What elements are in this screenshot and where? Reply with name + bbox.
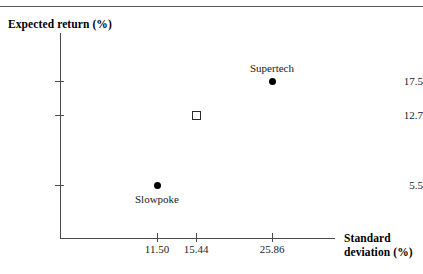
x-tick-mark-1: [196, 233, 197, 242]
y-axis-title: Expected return (%): [8, 18, 112, 30]
data-point-portfolio[interactable]: [192, 111, 201, 120]
y-axis-line: [60, 33, 61, 239]
data-point-supertech[interactable]: [269, 78, 276, 85]
y-tick-label-0: 17.5: [371, 76, 423, 87]
y-tick-label-2: 5.5: [371, 180, 423, 191]
data-point-slowpoke[interactable]: [154, 182, 161, 189]
data-point-label-supertech: Supertech: [222, 62, 322, 74]
x-tick-mark-0: [157, 233, 158, 242]
x-axis-line: [60, 238, 335, 239]
chart-figure: Expected return (%) 17.5 12.7 5.5 11.50 …: [0, 0, 423, 274]
y-tick-mark-1: [55, 115, 64, 116]
figure-top-rule: [0, 6, 423, 7]
x-axis-title: Standard deviation (%): [344, 231, 413, 259]
y-tick-mark-2: [55, 185, 64, 186]
x-tick-mark-2: [272, 233, 273, 242]
y-tick-mark-0: [55, 81, 64, 82]
x-axis-title-line2: deviation (%): [344, 245, 413, 259]
y-tick-label-1: 12.7: [371, 110, 423, 121]
x-tick-label-2: 25.86: [242, 244, 302, 255]
x-axis-title-line1: Standard: [344, 231, 413, 245]
x-tick-label-1: 15.44: [166, 244, 226, 255]
data-point-label-slowpoke: Slowpoke: [107, 193, 207, 205]
